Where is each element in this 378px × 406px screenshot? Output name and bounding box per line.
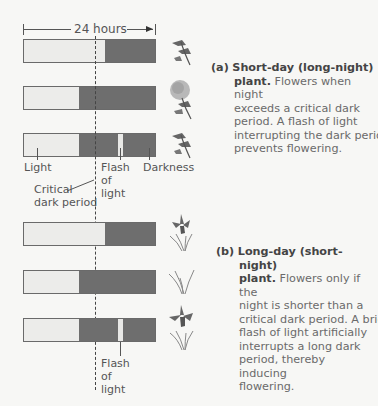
photoperiod-bar-a1: [23, 39, 156, 63]
flash-of-light-segment: [118, 319, 123, 341]
iris-flower-icon: [166, 303, 198, 351]
panel-a-description: (a) Short-day (long-night) plant. Flower…: [211, 61, 377, 156]
dark-segment: [79, 134, 155, 156]
light-pointer: [37, 148, 38, 160]
iris-flower-icon: [166, 212, 198, 252]
arrow-right-icon: [146, 26, 153, 32]
panel-a-text-line: interrupting the dark period: [211, 129, 377, 143]
panel-a-title: Short-day (long-night): [232, 61, 373, 74]
photoperiod-bar-a2: [23, 86, 156, 110]
flash-pointer: [120, 148, 121, 160]
critical-label-line2: dark period: [34, 196, 97, 209]
dark-segment: [105, 223, 155, 245]
short-day-plant-icon: [164, 129, 194, 159]
panel-a-text-line: period. A flash of light: [211, 115, 377, 129]
panel-b-text-line: flash of light artificially: [216, 326, 376, 340]
flash-of-light-label-b: Flash of light: [101, 357, 130, 396]
flash-of-light-label-a: Flash of light: [101, 161, 130, 200]
flash-label-line2: of: [101, 174, 130, 187]
darkness-label: Darkness: [143, 161, 194, 174]
panel-b-tag: (b): [216, 245, 234, 258]
photoperiod-bar-b3: [23, 318, 156, 342]
panel-b-description: (b) Long-day (short-night) plant. Flower…: [216, 245, 376, 394]
panel-b-title-cont: plant.: [239, 272, 276, 285]
flash-pointer-b: [120, 342, 121, 356]
panel-b-text-line: interrupts a long dark: [216, 340, 376, 354]
dark-segment: [79, 271, 155, 293]
flash-label-line2: of: [101, 370, 130, 383]
short-day-plant-icon: [164, 36, 194, 66]
panel-a-heading: (a) Short-day (long-night): [211, 61, 377, 75]
panel-b-text-line: period, thereby inducing: [216, 353, 376, 380]
flash-label-line1: Flash: [101, 161, 130, 174]
flash-label-line3: light: [101, 383, 130, 396]
light-segment: [24, 319, 79, 341]
light-segment: [24, 134, 79, 156]
panel-a-title-cont: plant.: [234, 75, 271, 88]
panel-a-tag: (a): [211, 61, 229, 74]
iris-leaves-icon: [166, 268, 198, 296]
critical-pointer-line: [66, 178, 96, 194]
dark-segment: [105, 40, 155, 62]
light-segment: [24, 271, 79, 293]
dark-segment: [79, 319, 155, 341]
light-label: Light: [24, 161, 51, 174]
photoperiod-bar-a3: [23, 133, 156, 157]
flash-label-line3: light: [101, 187, 130, 200]
light-segment: [24, 87, 79, 109]
panel-b-text-line: night is shorter than a: [216, 299, 376, 313]
duration-label: 24 hours: [74, 22, 127, 36]
light-segment: [24, 223, 105, 245]
panel-b-title: Long-day (short-night): [238, 245, 343, 272]
panel-a-text-line: exceeds a critical dark: [211, 102, 377, 116]
panel-b-line2: plant. Flowers only if the: [216, 272, 376, 299]
duration-bracket: 24 hours: [23, 22, 156, 36]
dark-segment: [79, 87, 155, 109]
chrysanthemum-flower-icon: [164, 78, 198, 120]
darkness-pointer: [149, 148, 150, 160]
panel-b-text-line: flowering.: [216, 380, 376, 394]
bracket-line-left: [23, 29, 71, 30]
photoperiod-bar-b1: [23, 222, 156, 246]
panel-a-line2: plant. Flowers when night: [211, 75, 377, 102]
panel-a-text-line: prevents flowering.: [211, 142, 377, 156]
bracket-right-cap: [155, 24, 156, 35]
panel-b-text-line: critical dark period. A brief: [216, 313, 376, 327]
photoperiod-bar-b2: [23, 270, 156, 294]
flash-label-line1: Flash: [101, 357, 130, 370]
light-segment: [24, 40, 105, 62]
panel-b-heading: (b) Long-day (short-night): [216, 245, 376, 272]
